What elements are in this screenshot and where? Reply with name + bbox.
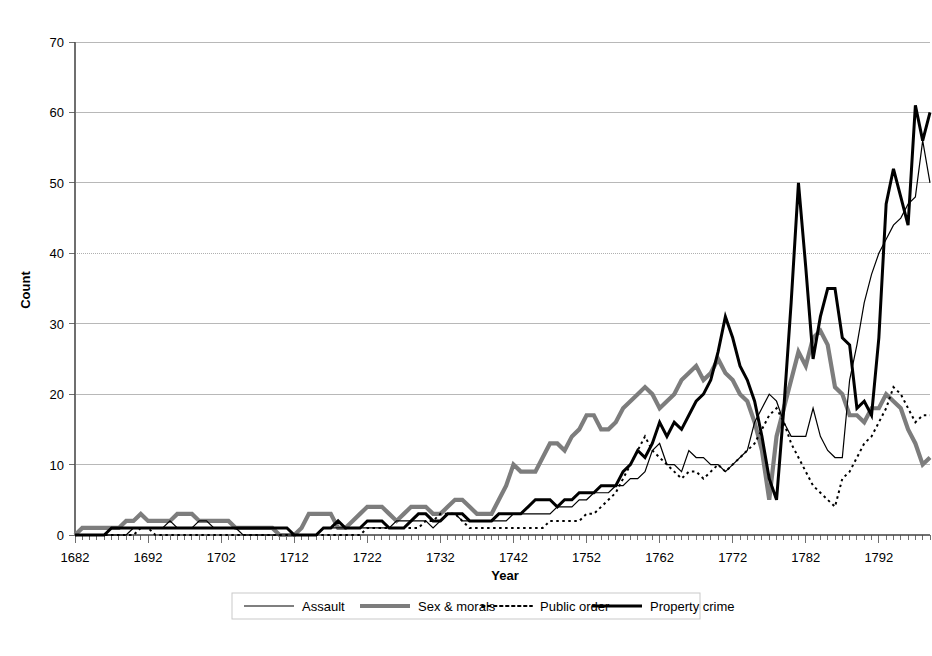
chart-container: 010203040506070 168216921702171217221732… <box>0 0 932 656</box>
line-chart: 010203040506070 168216921702171217221732… <box>0 0 932 656</box>
x-tick-label: 1792 <box>864 550 893 565</box>
x-tick-label: 1702 <box>207 550 236 565</box>
y-tick-label: 50 <box>50 176 64 191</box>
x-tick-label: 1692 <box>134 550 163 565</box>
x-tick-label: 1752 <box>572 550 601 565</box>
legend: AssaultSex & moralsPublic orderProperty … <box>232 593 735 619</box>
y-tick-label: 10 <box>50 458 64 473</box>
x-tick-label: 1732 <box>426 550 455 565</box>
x-tick-label: 1712 <box>280 550 309 565</box>
x-axis-title: Year <box>491 568 518 583</box>
y-tick-label: 20 <box>50 387 64 402</box>
x-tick-label: 1782 <box>791 550 820 565</box>
y-tick-label: 70 <box>50 35 64 50</box>
x-tick-label: 1722 <box>353 550 382 565</box>
legend-label-property-crime: Property crime <box>650 599 735 614</box>
x-tick-label: 1742 <box>499 550 528 565</box>
y-tick-label: 30 <box>50 317 64 332</box>
x-tick-label: 1762 <box>645 550 674 565</box>
y-tick-label: 40 <box>50 246 64 261</box>
y-tick-label: 60 <box>50 105 64 120</box>
x-tick-label: 1772 <box>718 550 747 565</box>
legend-label-assault: Assault <box>302 599 345 614</box>
x-tick-label: 1682 <box>61 550 90 565</box>
y-axis-title: Count <box>18 271 33 309</box>
y-tick-label: 0 <box>57 528 64 543</box>
